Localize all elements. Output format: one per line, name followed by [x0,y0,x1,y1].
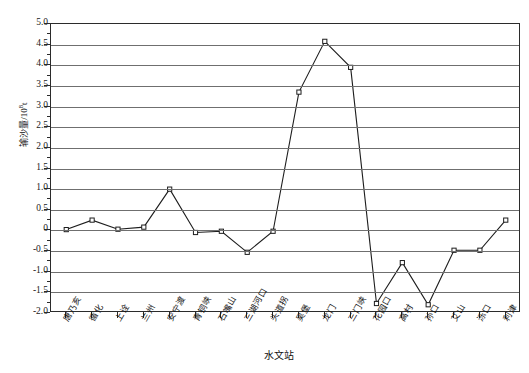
gridline [51,272,519,273]
y-axis-tick-labels: 5.04.54.03.53.02.52.01.51.00.50-0.5-1.0-… [14,23,48,312]
plot-area [50,23,520,312]
gridline [51,169,519,170]
data-point-marker [142,225,146,229]
gridline [51,210,519,211]
data-point-marker [504,218,508,222]
sediment-discharge-line-chart: 输沙量/108t 5.04.54.03.53.02.52.01.51.00.50… [0,0,529,373]
gridline [51,127,519,128]
gridline [51,86,519,87]
gridline [51,45,519,46]
gridline [51,230,519,231]
gridline [51,107,519,108]
gridline [51,65,519,66]
gridline [51,189,519,190]
data-point-marker [323,39,327,43]
data-point-marker [400,261,404,265]
gridline [51,148,519,149]
gridline [51,292,519,293]
x-axis-title: 水文站 [0,347,529,362]
gridline [51,251,519,252]
series-markers [64,39,508,307]
data-point-marker [90,218,94,222]
series-line-sediment [66,41,505,304]
data-point-marker [297,90,301,94]
